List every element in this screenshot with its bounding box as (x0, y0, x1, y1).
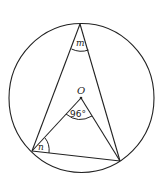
label-96: 96° (70, 109, 86, 119)
chord-top-right (80, 24, 120, 161)
radius-right (81, 98, 120, 161)
center-point (80, 97, 83, 100)
angle-arc-m (72, 49, 89, 51)
chord-bottom (32, 151, 120, 161)
chord-top-left (32, 24, 80, 151)
label-O: O (77, 85, 85, 96)
label-n: n (38, 142, 44, 152)
label-m: m (76, 38, 85, 48)
angle-arc-n (45, 138, 49, 153)
circle-diagram: m O 96° n (0, 0, 163, 179)
